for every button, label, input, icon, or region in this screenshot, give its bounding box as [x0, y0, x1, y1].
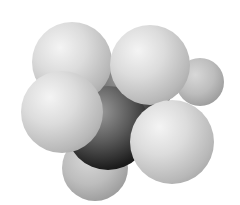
molecule-model	[0, 0, 240, 205]
hydrogen-atom-top-right	[110, 25, 190, 105]
hydrogen-atom-front-left	[21, 71, 103, 153]
hydrogen-atom-bottom-right	[130, 100, 214, 184]
